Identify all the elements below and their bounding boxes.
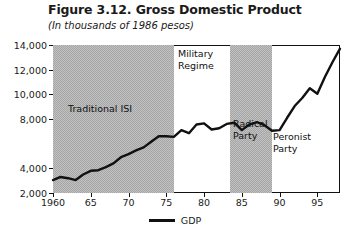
x-axis-tick-mark [242,193,243,197]
x-axis-tick-label: 90 [274,197,286,208]
y-axis-tick-label: 12,000 [14,64,47,75]
x-axis-tick-label: 1960 [41,197,65,208]
x-axis-tick-mark [91,193,92,197]
figure-subtitle: (In thousands of 1986 pesos) [48,20,194,31]
x-axis-tick-mark [317,193,318,197]
regime-band-label: Traditional ISI [68,103,132,115]
regime-band-label: Radical Party [233,118,268,141]
y-axis-tick-label: 14,000 [14,40,47,51]
x-axis-tick-mark [280,193,281,197]
y-axis-tick-mark [49,70,53,71]
x-axis-tick-label: 95 [311,197,323,208]
x-axis-tick-mark [166,193,167,197]
x-axis-tick-mark [204,193,205,197]
x-axis-tick-mark [129,193,130,197]
x-axis-tick-mark [53,193,54,197]
y-axis-tick-label: 10,000 [14,89,47,100]
gdp-legend-label: GDP [181,215,201,226]
chart-legend: GDP [0,215,350,226]
x-axis-tick-label: 85 [236,197,248,208]
regime-band-label: Peronist Party [273,131,311,154]
x-axis-tick-label: 80 [198,197,210,208]
y-axis-tick-label: 4,000 [20,163,47,174]
y-axis-tick-label: 8,000 [20,114,47,125]
x-axis-tick-label: 75 [160,197,172,208]
y-axis-tick-mark [49,94,53,95]
gdp-legend-swatch [149,219,175,222]
x-axis-tick-label: 70 [122,197,134,208]
figure-gross-domestic-product: Figure 3.12. Gross Domestic Product (In … [0,0,350,235]
y-axis-tick-mark [49,119,53,120]
x-axis-tick-label: 65 [85,197,97,208]
figure-title: Figure 3.12. Gross Domestic Product [48,2,302,17]
regime-band-label: Military Regime [178,48,214,71]
y-axis-tick-mark [49,168,53,169]
y-axis-tick-mark [49,45,53,46]
